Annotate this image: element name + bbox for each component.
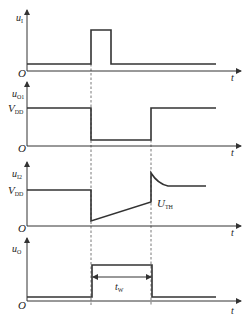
u-i2-waveform (27, 173, 206, 221)
svg-text:O: O (18, 142, 26, 154)
svg-text:t: t (231, 147, 234, 158)
svg-text:t: t (231, 305, 234, 316)
tw-label: tW (115, 281, 124, 293)
panel-u-i2: uI2 VDD O t UTH (8, 162, 241, 238)
t-label: t (231, 72, 234, 83)
vdd-label: VDD (8, 102, 24, 115)
u-i-waveform (27, 30, 216, 64)
panel-label: uI2 (12, 168, 22, 180)
panel-label: uO (12, 243, 22, 255)
u-o1-waveform (27, 108, 216, 140)
uth-label: UTH (157, 197, 174, 210)
svg-text:O: O (18, 299, 26, 311)
timing-diagram: uI O t uO1 VDD O t uI2 VDD O t UTH uO O … (0, 0, 249, 318)
panel-u-o: uO O t tW (12, 238, 241, 316)
panel-label: uO1 (12, 88, 24, 100)
panel-u-i: uI O t (16, 10, 241, 83)
svg-text:O: O (18, 222, 26, 234)
svg-text:t: t (231, 227, 234, 238)
vdd-label: VDD (8, 184, 24, 197)
origin-label: O (18, 67, 26, 79)
panel-label: uI (16, 12, 23, 24)
dashed-guides (91, 64, 151, 305)
panel-u-o1: uO1 VDD O t (8, 82, 241, 158)
